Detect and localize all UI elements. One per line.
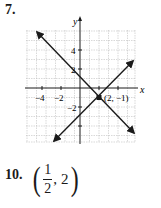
point-label: (2, −1) <box>104 93 129 103</box>
y-tick-label: 4 <box>71 46 76 56</box>
x-tick-label: −2 <box>54 93 64 103</box>
second-coordinate: 2 <box>61 171 69 188</box>
right-paren: ) <box>70 162 78 196</box>
comma: , <box>53 171 57 188</box>
denominator: 2 <box>44 182 51 196</box>
y-axis-label: y <box>72 16 78 27</box>
fraction-bar <box>43 179 52 180</box>
y-tick-label: −2 <box>67 103 77 113</box>
intersection-point <box>97 95 102 100</box>
line-y-neg-x-plus-1 <box>37 32 134 133</box>
y-tick-label: 2 <box>71 65 76 75</box>
x-axis-label: x <box>139 84 145 95</box>
problem-10-answer: ( 1 2 , 2 ) <box>31 158 80 200</box>
numerator: 1 <box>44 163 51 177</box>
left-paren: ( <box>33 162 41 196</box>
problem-10-number: 10. <box>5 167 23 183</box>
x-tick-label: −4 <box>35 93 45 103</box>
fraction: 1 2 <box>43 163 52 196</box>
coordinate-graph: y x −4 −2 4 2 −2 (2, −1) <box>0 0 161 208</box>
